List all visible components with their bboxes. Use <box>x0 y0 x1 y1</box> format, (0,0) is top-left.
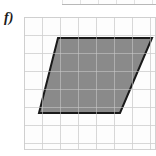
shape-layer <box>0 0 156 156</box>
figure-screenshot: f) <box>0 0 156 156</box>
parallelogram-shape <box>39 38 152 113</box>
